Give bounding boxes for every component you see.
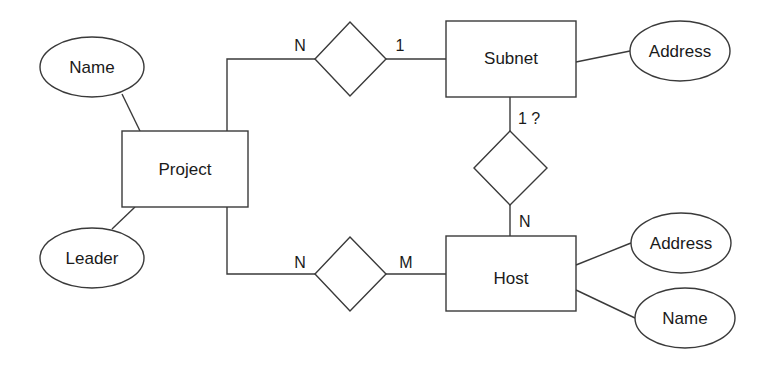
attribute-project-name[interactable]: Name [40, 37, 144, 97]
attribute-label: Name [69, 58, 114, 77]
attribute-host-name[interactable]: Name [635, 288, 735, 348]
edge-project-to-rel-subnet [227, 59, 315, 131]
entity-label: Host [494, 269, 529, 288]
cardinality-project-host-host: M [399, 254, 412, 271]
attribute-label: Address [649, 42, 711, 61]
attribute-label: Address [650, 234, 712, 253]
relationship-project-host[interactable] [315, 237, 386, 311]
cardinality-subnet-host-host: N [519, 213, 531, 230]
cardinality-subnet-host-subnet: 1 ? [518, 110, 540, 127]
entity-label: Subnet [484, 49, 538, 68]
attribute-subnet-address[interactable]: Address [630, 21, 730, 81]
edge-subnet-address [576, 51, 630, 62]
cardinality-project-subnet-subnet: 1 [396, 37, 405, 54]
entity-project[interactable]: Project [122, 131, 248, 207]
er-diagram: Name Leader Address Address Name Project… [0, 0, 772, 370]
attribute-label: Name [662, 309, 707, 328]
edge-host-address [576, 243, 631, 265]
attribute-host-address[interactable]: Address [631, 213, 731, 273]
entity-label: Project [159, 160, 212, 179]
relationship-project-subnet[interactable] [315, 22, 386, 96]
attribute-label: Leader [66, 249, 119, 268]
entity-subnet[interactable]: Subnet [446, 21, 576, 97]
cardinality-project-subnet-project: N [294, 37, 306, 54]
relationship-subnet-host[interactable] [474, 131, 547, 205]
cardinality-project-host-project: N [294, 254, 306, 271]
edge-host-name [576, 290, 635, 318]
edge-project-leader [112, 207, 135, 229]
attribute-project-leader[interactable]: Leader [40, 228, 144, 288]
edge-project-name [122, 94, 140, 131]
entity-host[interactable]: Host [446, 236, 576, 311]
